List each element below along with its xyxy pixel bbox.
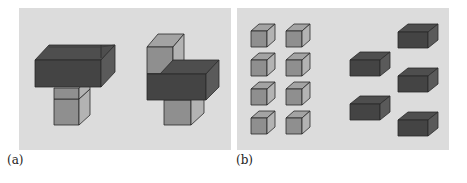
panel-a-label: (a) [7,153,24,167]
left-stack [35,45,115,125]
panel-b-label: (b) [236,153,253,167]
stacked-blocks-diagram [19,8,231,150]
panel-a [19,8,231,150]
panel-b [237,8,449,150]
dark-blocks [350,24,438,136]
light-cubes-grid [251,24,310,134]
separated-blocks-diagram [237,8,449,150]
right-stack [147,34,219,125]
